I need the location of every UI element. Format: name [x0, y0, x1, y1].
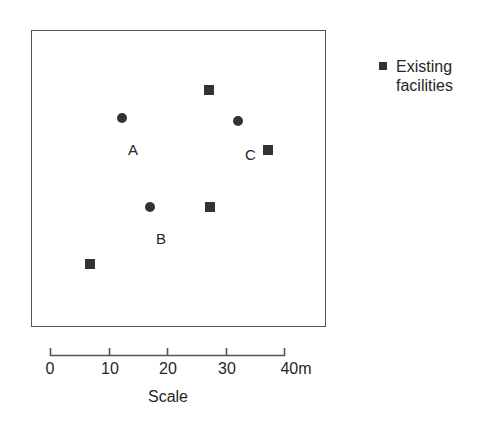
- map-plot-area: A B C: [31, 30, 326, 327]
- candidate-site-marker-b: [145, 202, 155, 212]
- facility-location-figure: A B C Existing facilities 0 10 20 30 40m…: [0, 0, 500, 426]
- scale-tick-label-0: 0: [46, 360, 55, 378]
- square-marker-icon: [379, 62, 387, 70]
- legend: Existing facilities: [379, 57, 497, 95]
- scale-caption: Scale: [0, 388, 336, 406]
- scale-tick-label-30: 30: [218, 360, 236, 378]
- candidate-site-marker-a: [117, 113, 127, 123]
- scale-tick-label-10: 10: [101, 360, 119, 378]
- legend-item-label: Existing facilities: [396, 57, 453, 95]
- candidate-site-label-c: C: [245, 147, 256, 162]
- existing-facility-marker: [263, 145, 273, 155]
- candidate-site-marker-c: [233, 116, 243, 126]
- scale-tick-label-40: 40m: [280, 360, 311, 378]
- existing-facility-marker: [85, 259, 95, 269]
- candidate-site-label-a: A: [128, 142, 138, 157]
- existing-facility-marker: [205, 202, 215, 212]
- scale-tick-label-20: 20: [159, 360, 177, 378]
- existing-facility-marker: [204, 85, 214, 95]
- candidate-site-label-b: B: [156, 231, 166, 246]
